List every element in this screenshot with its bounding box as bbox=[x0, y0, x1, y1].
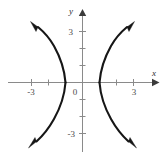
x-axis-arrowhead bbox=[152, 79, 160, 86]
right-branch-lower-arrowhead bbox=[129, 138, 137, 149]
x-tick-label-pos3: 3 bbox=[132, 87, 137, 97]
hyperbola-left-branch bbox=[29, 22, 66, 149]
y-tick-label-pos3: 3 bbox=[69, 27, 74, 37]
x-axis-group bbox=[8, 79, 160, 86]
left-branch-upper-path bbox=[38, 27, 66, 83]
left-branch-upper-arrowhead bbox=[31, 22, 39, 32]
origin-label: 0 bbox=[73, 87, 78, 97]
left-branch-lower-path bbox=[37, 83, 66, 142]
right-branch-upper-arrowhead bbox=[127, 22, 135, 32]
y-axis-group bbox=[79, 9, 86, 152]
left-branch-lower-arrowhead bbox=[29, 138, 37, 149]
hyperbola-graph-figure: y x 3 -3 -3 3 0 bbox=[0, 0, 167, 162]
coordinate-plane: y x 3 -3 -3 3 0 bbox=[0, 0, 167, 162]
right-branch-lower-path bbox=[100, 83, 129, 142]
x-tick-label-neg3: -3 bbox=[27, 87, 35, 97]
y-tick-label-neg3: -3 bbox=[68, 129, 76, 139]
y-axis-label: y bbox=[68, 6, 73, 16]
y-axis-arrowhead bbox=[79, 9, 86, 16]
hyperbola-right-branch bbox=[100, 22, 137, 149]
right-branch-upper-path bbox=[100, 27, 128, 83]
x-axis-label: x bbox=[151, 68, 156, 78]
